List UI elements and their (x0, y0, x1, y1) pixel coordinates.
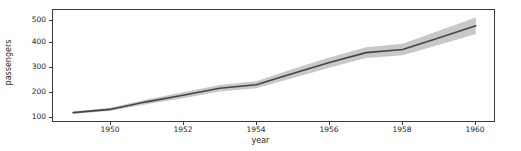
confidence-band (73, 17, 476, 113)
x-tick-label-1958: 1958 (382, 126, 422, 134)
x-tick-label-1960: 1960 (455, 126, 495, 134)
y-axis-label: passengers (4, 33, 13, 93)
y-tick-label-100: 100 (20, 113, 46, 121)
y-tick-label-500: 500 (20, 16, 46, 24)
x-tick-label-1950: 1950 (90, 126, 130, 134)
x-tick-label-1954: 1954 (236, 126, 276, 134)
mean-line (73, 26, 476, 113)
x-tick-label-1956: 1956 (309, 126, 349, 134)
plot-area (52, 9, 495, 122)
y-tick-label-300: 300 (20, 63, 46, 71)
x-tick-label-1952: 1952 (163, 126, 203, 134)
x-axis-label: year (0, 136, 521, 145)
chart-figure: 500 400 300 200 100 1950 1952 1954 1956 … (0, 0, 521, 151)
series-plot (53, 10, 495, 122)
y-tick-label-200: 200 (20, 88, 46, 96)
y-tick-label-400: 400 (20, 38, 46, 46)
